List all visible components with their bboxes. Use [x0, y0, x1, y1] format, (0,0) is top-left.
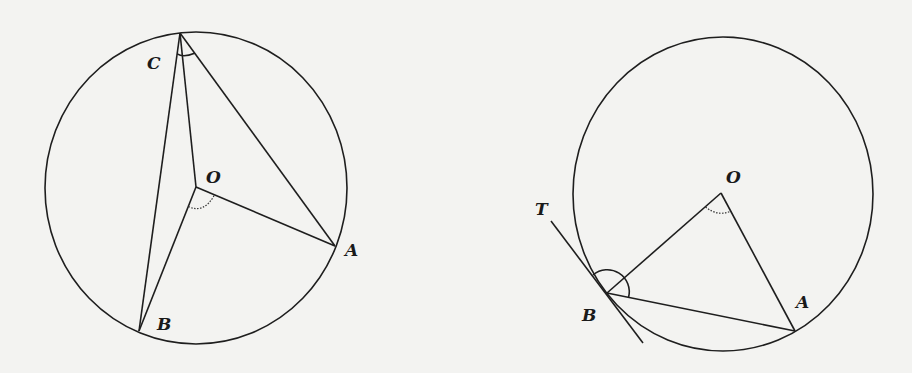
- figure-right: T O A B: [535, 37, 873, 351]
- label-B-left: B: [156, 314, 171, 334]
- angle-mark-O-right: [706, 207, 732, 213]
- segment-OB: [139, 187, 196, 331]
- label-A-right: A: [794, 292, 809, 312]
- figure-canvas: C O A B T O A B: [0, 0, 912, 373]
- label-O-right: O: [726, 167, 741, 187]
- right-circle: [573, 37, 873, 351]
- segment-BA: [607, 293, 795, 331]
- label-A-left: A: [343, 240, 358, 260]
- segment-CB: [139, 33, 180, 331]
- label-B-right: B: [581, 305, 596, 325]
- segment-CA: [180, 33, 335, 246]
- angle-mark-C: [177, 53, 194, 55]
- figure-left: C O A B: [45, 32, 358, 344]
- tangent-line: [551, 221, 643, 343]
- segment-OA: [721, 193, 795, 331]
- label-T: T: [535, 199, 549, 219]
- label-C: C: [147, 53, 161, 73]
- label-O-left: O: [206, 167, 221, 187]
